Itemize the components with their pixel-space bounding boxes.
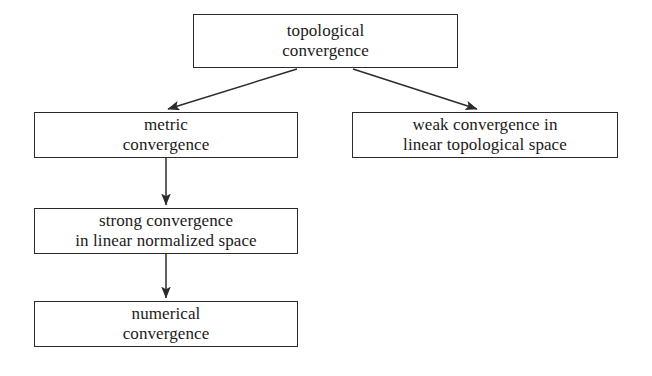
node-topological-convergence: topological convergence <box>193 14 458 68</box>
node-label: weak convergence in linear topological s… <box>397 115 573 154</box>
node-label: strong convergence in linear normalized … <box>69 211 263 250</box>
node-label: topological convergence <box>276 21 375 60</box>
node-strong-convergence-linear-normalized-space: strong convergence in linear normalized … <box>34 208 298 254</box>
convergence-hierarchy-diagram: topological convergence metric convergen… <box>0 0 652 376</box>
node-label: metric convergence <box>117 115 216 154</box>
node-label: numerical convergence <box>117 304 216 343</box>
edge-topological-weak <box>353 69 477 109</box>
edge-topological-metric <box>168 69 297 109</box>
node-metric-convergence: metric convergence <box>34 112 298 158</box>
node-numerical-convergence: numerical convergence <box>34 301 298 347</box>
node-weak-convergence-linear-topological-space: weak convergence in linear topological s… <box>352 112 618 158</box>
